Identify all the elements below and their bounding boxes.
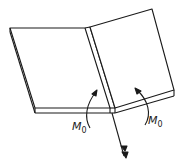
moment-label-right: M0 <box>148 114 163 129</box>
moment-label-left: M0 <box>72 120 87 135</box>
moment-vector-double-arrow <box>112 113 128 158</box>
folded-plate-diagram <box>0 0 185 168</box>
